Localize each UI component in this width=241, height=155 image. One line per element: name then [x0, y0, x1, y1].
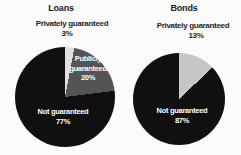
loans-privately-guaranteed-label: Privately guaranteed — [32, 19, 112, 29]
loans-publicly-guaranteed-label: Publicly guaranteed 20% — [64, 54, 112, 83]
bonds-privately-guaranteed-label: Privately guaranteed — [153, 21, 233, 31]
slice-label-text: Publicly guaranteed — [69, 54, 106, 73]
slice-pct-text: 77% — [18, 117, 108, 127]
loans-pie: Publicly guaranteed 20% Not guaranteed 7… — [15, 47, 115, 147]
slice-label-text: Not guaranteed — [157, 106, 208, 115]
loans-privately-guaranteed-pct: 3% — [27, 29, 107, 39]
loans-chart-title: Loans — [21, 3, 101, 13]
bonds-not-guaranteed-label: Not guaranteed 87% — [137, 106, 227, 125]
slice-pct-text: 20% — [64, 73, 112, 83]
slice-label-text: Not guaranteed — [38, 107, 89, 116]
loans-not-guaranteed-label: Not guaranteed 77% — [18, 107, 108, 126]
dual-pie-figure: Loans Privately guaranteed 3% Publicly g… — [0, 0, 241, 155]
slice-pct-text: 87% — [137, 116, 227, 126]
bonds-privately-guaranteed-pct: 13% — [156, 31, 236, 41]
bonds-pie: Not guaranteed 87% — [133, 53, 225, 145]
bonds-chart-title: Bonds — [144, 3, 224, 13]
